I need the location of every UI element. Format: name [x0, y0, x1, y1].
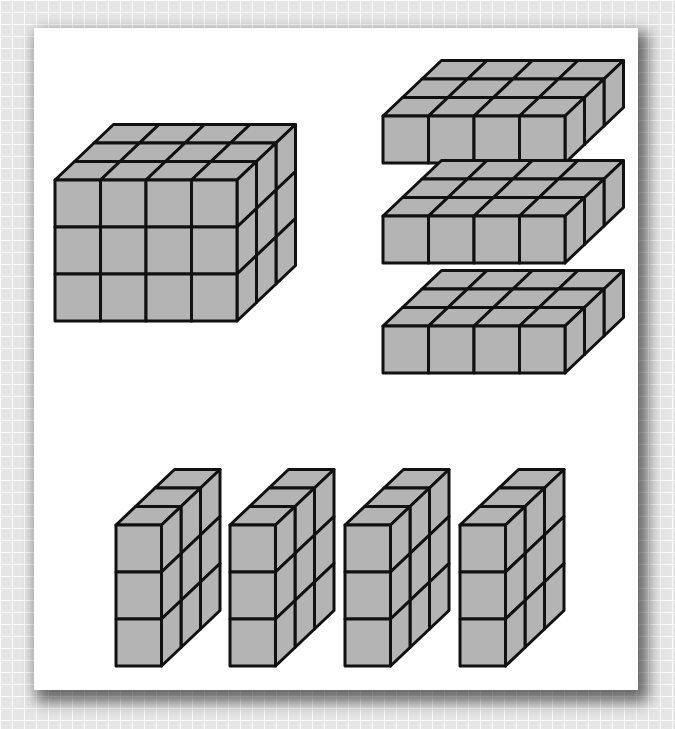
horizontal-slab-3	[383, 271, 624, 374]
front-face-cell	[383, 116, 429, 163]
front-face-cell	[429, 326, 475, 373]
front-face-cell	[429, 216, 475, 263]
horizontal-slab-2	[383, 161, 624, 264]
front-face-cell	[474, 116, 520, 163]
front-face-cell	[101, 227, 147, 274]
front-face-cell	[192, 180, 238, 227]
front-face-cell	[192, 274, 238, 321]
horizontal-slab-1	[383, 61, 624, 164]
front-face-cell	[460, 572, 506, 619]
vertical-slab-1	[116, 470, 220, 667]
front-face-cell	[345, 525, 391, 572]
front-face-cell	[383, 326, 429, 373]
front-face-cell	[429, 116, 475, 163]
vertical-slab-4	[460, 470, 564, 667]
full-block	[55, 125, 296, 322]
front-face-cell	[230, 572, 276, 619]
front-face-cell	[55, 274, 101, 321]
vertical-slab-3	[345, 470, 449, 667]
vertical-slab-2	[230, 470, 334, 667]
front-face-cell	[192, 227, 238, 274]
front-face-cell	[146, 227, 192, 274]
front-face-cell	[383, 216, 429, 263]
front-face-cell	[55, 227, 101, 274]
front-face-cell	[520, 216, 566, 263]
front-face-cell	[230, 619, 276, 666]
front-face-cell	[474, 326, 520, 373]
front-face-cell	[460, 525, 506, 572]
front-face-cell	[520, 326, 566, 373]
front-face-cell	[146, 274, 192, 321]
front-face-cell	[460, 619, 506, 666]
front-face-cell	[116, 525, 162, 572]
front-face-cell	[55, 180, 101, 227]
front-face-cell	[520, 116, 566, 163]
front-face-cell	[146, 180, 192, 227]
front-face-cell	[101, 274, 147, 321]
front-face-cell	[230, 525, 276, 572]
front-face-cell	[474, 216, 520, 263]
front-face-cell	[345, 619, 391, 666]
front-face-cell	[345, 572, 391, 619]
front-face-cell	[101, 180, 147, 227]
cube-decomposition-diagram	[0, 0, 675, 729]
front-face-cell	[116, 572, 162, 619]
front-face-cell	[116, 619, 162, 666]
